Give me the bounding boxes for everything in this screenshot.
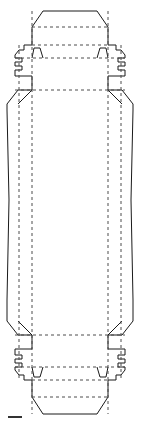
left-bottom-corner-diagonal bbox=[18, 321, 32, 335]
right-top-corner-diagonal bbox=[108, 90, 122, 104]
left-top-lock-tab-icon bbox=[32, 48, 43, 58]
cut-outline-path bbox=[7, 11, 133, 414]
dieline-canvas bbox=[0, 0, 141, 425]
right-bottom-corner-diagonal bbox=[108, 321, 122, 335]
left-top-corner-diagonal bbox=[18, 90, 32, 104]
dieline-drawing bbox=[0, 0, 141, 425]
right-top-lock-tab-icon bbox=[97, 48, 108, 58]
right-bottom-lock-tab-icon bbox=[97, 367, 108, 377]
left-bottom-lock-tab-icon bbox=[32, 367, 43, 377]
